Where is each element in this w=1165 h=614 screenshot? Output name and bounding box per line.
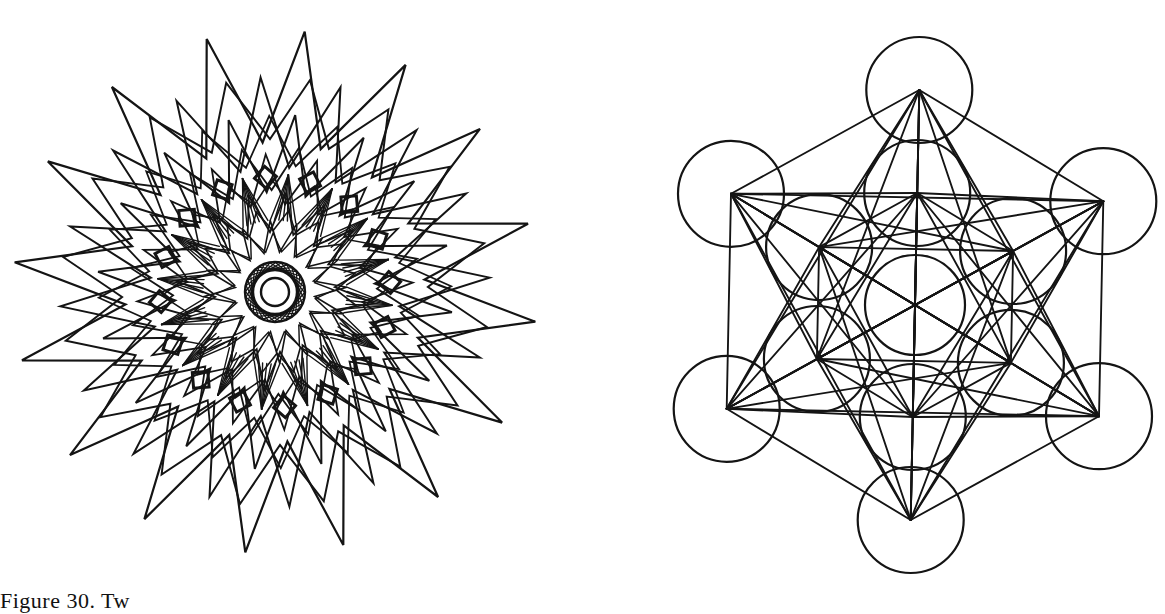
metatron-lines: [727, 90, 1104, 520]
figure-caption: Figure 30. Tw: [0, 588, 130, 614]
